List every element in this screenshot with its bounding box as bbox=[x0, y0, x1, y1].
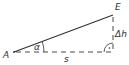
hypotenuse-line bbox=[14, 15, 113, 52]
angle-arc bbox=[42, 42, 44, 52]
triangle-diagram: A E α s Δh bbox=[0, 0, 129, 65]
height-delta-label: Δh bbox=[114, 29, 127, 39]
right-angle-marker bbox=[104, 43, 113, 52]
angle-alpha-label: α bbox=[34, 42, 40, 52]
distance-s-label: s bbox=[64, 54, 69, 64]
point-a-dot bbox=[13, 51, 15, 53]
point-a-label: A bbox=[2, 50, 9, 60]
point-e-label: E bbox=[115, 2, 121, 12]
right-angle-dot bbox=[109, 47, 111, 49]
